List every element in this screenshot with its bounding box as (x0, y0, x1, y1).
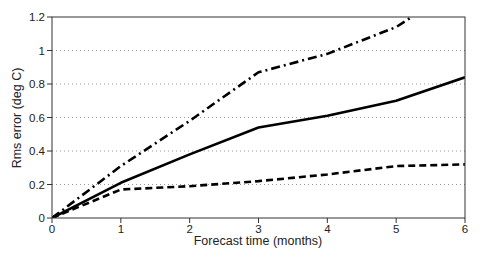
y-tick-label: 0.8 (29, 78, 45, 90)
plot-frame (52, 17, 465, 218)
x-tick-label: 2 (186, 223, 192, 235)
x-tick-label: 5 (393, 223, 399, 235)
x-tick-label: 0 (49, 223, 55, 235)
gridlines (52, 51, 465, 185)
y-tick-label: 0.2 (29, 179, 45, 191)
y-axis-label: Rms error (deg C) (10, 68, 24, 169)
x-tick-label: 1 (118, 223, 124, 235)
y-tick-label: 0.4 (29, 145, 46, 157)
x-axis-label: Forecast time (months) (194, 234, 323, 248)
axes (47, 17, 465, 223)
series-line-solid (52, 77, 465, 218)
y-tick-label: 0 (39, 212, 45, 224)
data-lines (52, 14, 465, 218)
y-tick-label: 1 (39, 45, 45, 57)
line-chart: 012345600.20.40.60.811.2 Forecast time (… (0, 0, 483, 257)
y-tick-label: 0.6 (29, 112, 45, 124)
x-tick-label: 6 (462, 223, 468, 235)
x-tick-label: 4 (324, 223, 331, 235)
y-tick-label: 1.2 (29, 11, 45, 23)
series-line-dash-dot (52, 14, 417, 218)
